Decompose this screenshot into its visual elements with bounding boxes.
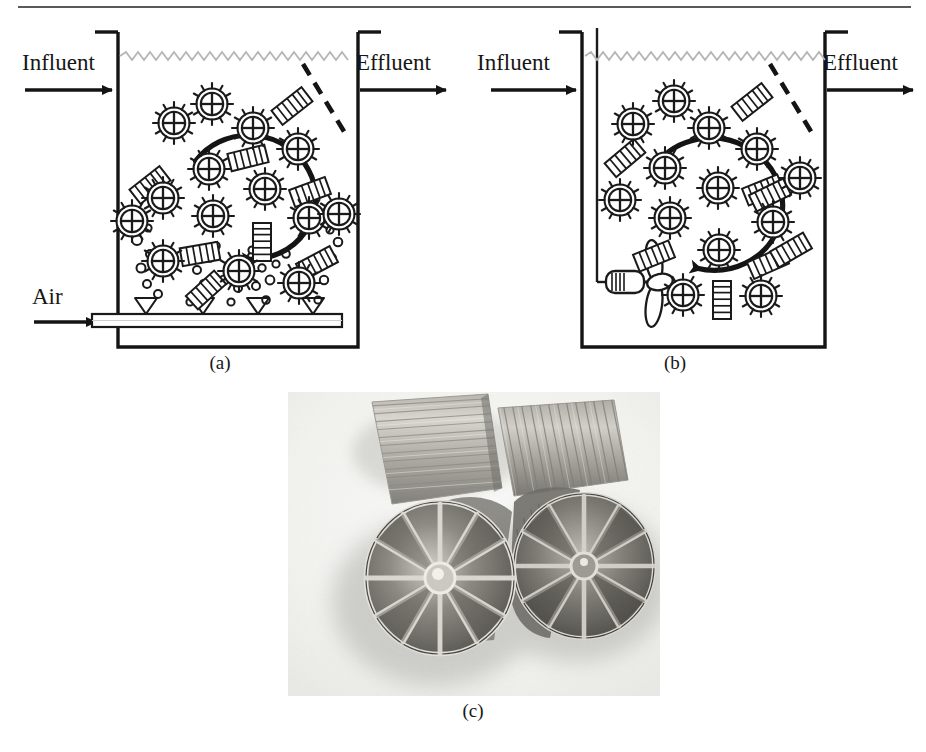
water-surface-a (120, 52, 348, 60)
influent-label-b: Influent (477, 50, 550, 75)
panel-b-diagram: Influent Effluent (455, 18, 926, 358)
panel-b-caption: (b) (620, 352, 730, 374)
panel-a-diagram: Influent Effluent Air (0, 18, 460, 358)
panel-a-caption: (a) (165, 352, 275, 374)
panel-c-photograph (288, 392, 660, 696)
effluent-label-a: Effluent (356, 50, 432, 75)
retention-sieve-b (770, 64, 815, 138)
figure-root: Influent Effluent Air (0, 0, 926, 752)
air-label-a: Air (32, 284, 63, 309)
panel-c-caption: (c) (418, 700, 528, 722)
effluent-label-b: Effluent (823, 50, 899, 75)
air-diffuser-pipe-a (92, 314, 342, 327)
photo-grain (288, 392, 660, 696)
figure-alt-text: Moving bed biofilm reactor (MBBR) schema… (0, 0, 1, 1)
page-top-rule (18, 6, 911, 8)
mixer-conduit-b (597, 28, 607, 282)
water-surface-b (585, 52, 825, 60)
influent-label-a: Influent (22, 50, 95, 75)
